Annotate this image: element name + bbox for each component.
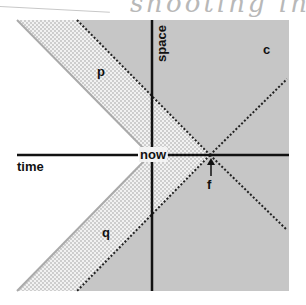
label-now: now bbox=[139, 147, 167, 162]
label-c: c bbox=[263, 42, 270, 57]
label-q: q bbox=[102, 225, 110, 240]
label-p: p bbox=[97, 64, 105, 79]
label-time: time bbox=[17, 159, 44, 174]
label-space: space bbox=[154, 24, 169, 64]
label-f: f bbox=[207, 177, 211, 192]
